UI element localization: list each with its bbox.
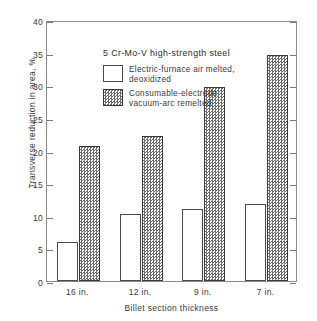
x-tick-label: 12 in. (129, 287, 152, 297)
y-tick-right (290, 153, 296, 154)
y-tick-right (290, 22, 296, 23)
y-tick-label: 40 (33, 17, 43, 27)
bar-open-2 (182, 209, 203, 281)
y-tick-right (290, 218, 296, 219)
y-tick-label: 35 (33, 50, 43, 60)
y-tick (47, 218, 53, 219)
y-tick-right (290, 250, 296, 251)
y-tick (47, 55, 53, 56)
bar-checkered-0 (79, 146, 100, 281)
y-tick-label: 20 (33, 148, 43, 158)
legend-swatch-checkered-icon (103, 89, 123, 106)
legend-label-checkered-line2: vacuum-arc remelted (129, 99, 217, 109)
y-tick (47, 87, 53, 88)
y-tick (47, 185, 53, 186)
x-tick-label: 7 in. (257, 287, 275, 297)
legend-label-open: Electric-furnace air melted, deoxidized (129, 65, 235, 84)
bar-open-1 (120, 214, 141, 281)
legend-item-open: Electric-furnace air melted, deoxidized (103, 65, 293, 84)
y-tick-label: 25 (33, 115, 43, 125)
x-axis-title: Billet section thickness (46, 303, 297, 313)
bar-checkered-2 (204, 87, 225, 281)
y-tick (47, 120, 53, 121)
plot-area: 0510152025303540 5 Cr-Mo-V high-strength… (46, 21, 297, 282)
legend-label-open-line1: Electric-furnace air melted, (129, 65, 235, 75)
bar-open-3 (245, 204, 266, 281)
y-tick-label: 30 (33, 82, 43, 92)
y-tick-right (290, 185, 296, 186)
y-tick (47, 22, 53, 23)
y-tick-right (290, 283, 296, 284)
chart-legend: 5 Cr-Mo-V high-strength steel Electric-f… (103, 48, 293, 113)
y-tick-label: 15 (33, 180, 43, 190)
bar-checkered-1 (142, 136, 163, 281)
y-tick-label: 0 (38, 278, 43, 288)
legend-label-open-line2: deoxidized (129, 75, 235, 85)
legend-label-checkered-line1: Consumable-electrode (129, 89, 217, 99)
legend-swatch-open-icon (103, 65, 123, 82)
y-tick (47, 250, 53, 251)
y-tick-right (290, 120, 296, 121)
y-tick (47, 283, 53, 284)
y-tick-label: 10 (33, 213, 43, 223)
bar-open-0 (57, 242, 78, 281)
chart-figure: Transverse reduction in area, % Billet s… (0, 0, 317, 321)
legend-item-checkered: Consumable-electrode vacuum-arc remelted (103, 89, 293, 108)
x-tick-label: 9 in. (194, 287, 212, 297)
x-tick-label: 16 in. (66, 287, 89, 297)
legend-label-checkered: Consumable-electrode vacuum-arc remelted (129, 89, 217, 108)
chart-title: 5 Cr-Mo-V high-strength steel (103, 48, 293, 58)
y-tick-label: 5 (38, 245, 43, 255)
y-tick (47, 153, 53, 154)
